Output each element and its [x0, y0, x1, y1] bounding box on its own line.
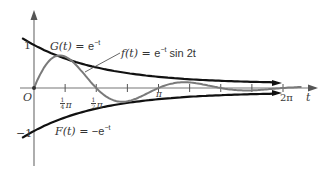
x-tick-label-quarter-pi: 14π	[60, 95, 72, 111]
x-tick-label-pi: π	[156, 90, 162, 99]
y-tick-label-neg1: −1	[16, 128, 32, 139]
function-plot	[0, 0, 326, 177]
label-G: G(t) = e−t	[50, 41, 100, 52]
label-F: F(t) = −e−t	[55, 126, 110, 137]
x-tick-label-half-pi: 12π	[91, 95, 103, 111]
label-f: f(t) = e−t sin 2t	[121, 48, 196, 59]
fraction: 12	[91, 97, 96, 110]
origin-label: O	[23, 92, 32, 103]
x-axis-label: t	[306, 92, 310, 103]
x-tick-label-2pi: 2π	[280, 93, 293, 103]
y-axis-arrow-icon	[31, 10, 38, 20]
y-tick-label-1: 1	[24, 40, 31, 51]
curve-G-arrow-icon	[272, 80, 282, 86]
fraction: 14	[60, 97, 65, 110]
origin-dot	[32, 86, 36, 90]
